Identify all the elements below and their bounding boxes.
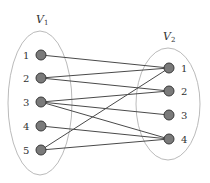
edge-v1-5-v2-4 [41,139,169,150]
node-v1-4-label: 4 [23,121,29,132]
edge-v1-3-v2-2 [41,91,169,102]
node-v2-2 [164,86,174,96]
edge-v1-2-v2-1 [41,68,169,78]
node-v1-1-label: 1 [23,50,29,61]
node-v2-3-label: 3 [181,110,187,121]
node-v1-3-label: 3 [23,97,29,108]
set-v2-label: V2 [163,30,175,44]
node-v2-1-label: 1 [181,63,187,74]
edges [41,55,169,150]
node-v2-4 [164,134,174,144]
set-v1-nodes: 1 2 3 4 5 [23,50,46,156]
node-v1-5-label: 5 [23,145,29,156]
node-v1-5 [36,145,46,155]
bipartite-graph: V1 V2 1 2 3 4 5 1 2 3 4 [0,0,210,183]
edge-v1-3-v2-4 [41,102,169,139]
edge-v1-1-v2-1 [41,55,169,68]
set-v2-nodes: 1 2 3 4 [164,63,187,145]
node-v2-2-label: 2 [181,86,187,97]
set-v1-label: V1 [36,13,48,27]
node-v1-2 [36,73,46,83]
node-v1-4 [36,121,46,131]
node-v2-4-label: 4 [181,134,187,145]
node-v1-1 [36,50,46,60]
node-v2-3 [164,110,174,120]
node-v2-1 [164,63,174,73]
node-v1-3 [36,97,46,107]
node-v1-2-label: 2 [23,73,29,84]
edge-v1-4-v2-4 [41,126,169,139]
